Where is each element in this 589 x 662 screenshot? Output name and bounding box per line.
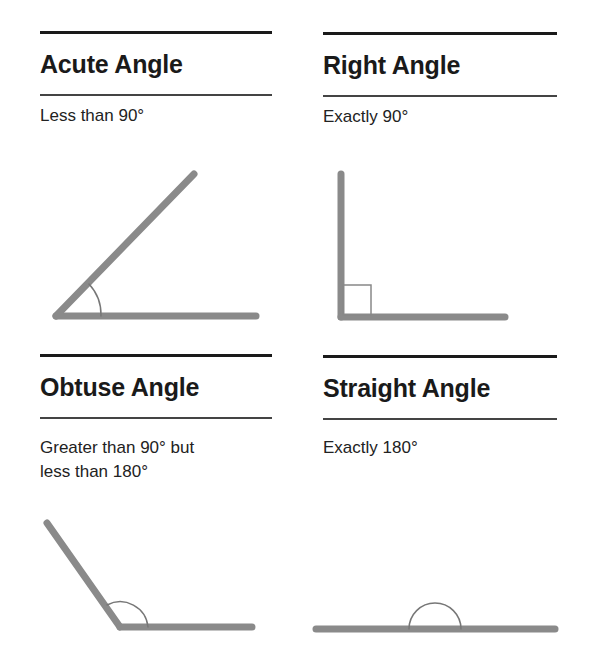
right-angle-figure [341, 174, 505, 317]
obtuse-angle-figure [47, 523, 252, 627]
acute-angle-figure [56, 174, 256, 316]
angle-figures [0, 0, 589, 662]
straight-angle-figure [316, 603, 555, 629]
